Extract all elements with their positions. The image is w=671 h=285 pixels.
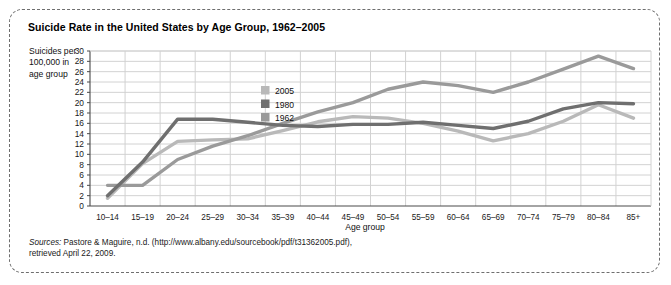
legend-label-2005: 2005 [275, 86, 294, 96]
x-tick-label: 60–64 [447, 213, 470, 222]
figure-frame: Suicide Rate in the United States by Age… [9, 9, 660, 273]
legend-label-1962: 1962 [275, 113, 294, 123]
x-axis-ticks: 10–1415–1920–2425–2930–3435–3940–4445–49… [96, 213, 640, 222]
y-tick-label: 0 [79, 201, 84, 211]
x-tick-label: 50–54 [377, 213, 400, 222]
y-tick-label: 26 [75, 67, 85, 77]
chart-plot-area: 024681012141618202224262830 10–1415–1920… [10, 10, 661, 274]
chart-legend: 200519801962 [261, 86, 294, 123]
source-text-line1: Pastore & Maguire, n.d. (http://www.alba… [61, 238, 352, 247]
y-tick-label: 4 [79, 180, 84, 190]
line-chart: 024681012141618202224262830 10–1415–1920… [10, 10, 661, 274]
y-tick-label: 6 [79, 170, 84, 180]
y-tick-label: 20 [75, 98, 85, 108]
y-tick-label: 12 [75, 139, 85, 149]
x-tick-label: 45–49 [342, 213, 365, 222]
y-axis-ticks: 024681012141618202224262830 [75, 46, 90, 211]
x-tick-label: 20–24 [166, 213, 189, 222]
x-tick-label: 15–19 [131, 213, 154, 222]
source-label: Sources: [29, 238, 61, 247]
y-tick-label: 14 [75, 129, 85, 139]
x-tick-label: 10–14 [96, 213, 119, 222]
legend-label-1980: 1980 [275, 100, 294, 110]
y-tick-label: 2 [79, 191, 84, 201]
y-tick-label: 24 [75, 77, 85, 87]
x-tick-label: 35–39 [271, 213, 294, 222]
x-tick-label: 30–34 [236, 213, 259, 222]
y-tick-label: 8 [79, 160, 84, 170]
x-tick-label: 70–74 [517, 213, 540, 222]
x-tick-label: 80–84 [587, 213, 610, 222]
legend-swatch-1980 [261, 100, 270, 109]
x-tick-label: 85+ [627, 213, 641, 222]
y-tick-label: 10 [75, 149, 85, 159]
gridlines [90, 51, 651, 206]
source-note: Sources: Pastore & Maguire, n.d. (http:/… [29, 237, 449, 259]
y-tick-label: 18 [75, 108, 85, 118]
y-tick-label: 30 [75, 46, 85, 56]
x-tick-label: 75–79 [552, 213, 575, 222]
legend-swatch-1962 [261, 113, 270, 122]
x-tick-label: 25–29 [201, 213, 224, 222]
y-tick-label: 22 [75, 87, 85, 97]
source-text-line2: retrieved April 22, 2009. [29, 249, 115, 258]
y-tick-label: 16 [75, 118, 85, 128]
x-tick-label: 65–69 [482, 213, 505, 222]
x-tick-label: 40–44 [307, 213, 330, 222]
legend-swatch-2005 [261, 86, 270, 95]
y-tick-label: 28 [75, 56, 85, 66]
x-axis-title: Age group [345, 222, 385, 232]
x-tick-label: 55–59 [412, 213, 435, 222]
